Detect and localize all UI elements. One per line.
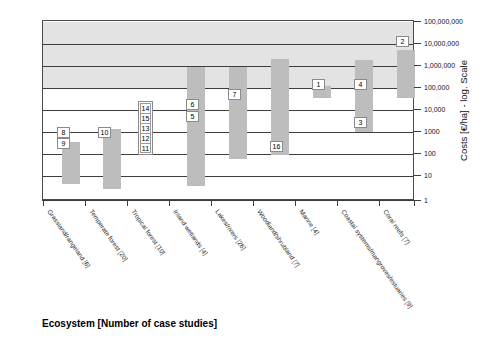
gridline-100 bbox=[43, 154, 413, 155]
x-tick-2 bbox=[127, 200, 128, 206]
y-tick-label-10: 10 bbox=[424, 172, 432, 179]
x-tick-8 bbox=[379, 200, 380, 206]
x-category-label-lakes-rivers: Lakes/rivers [26] bbox=[214, 208, 247, 251]
x-tick-3 bbox=[169, 200, 170, 206]
y-axis-title: Costs [€/ha] - log. Scale bbox=[455, 18, 471, 202]
y-axis-title-text: Costs [€/ha] - log. Scale bbox=[458, 60, 469, 161]
y-tick-1 bbox=[414, 200, 421, 201]
y-tick-100000 bbox=[414, 87, 421, 88]
x-tick-0 bbox=[43, 200, 44, 206]
x-category-label-grassland-rangeland: Grassland/rangeland [6] bbox=[46, 208, 92, 269]
annotation-box-1: 1 bbox=[312, 79, 325, 90]
y-tick-label-1: 1 bbox=[424, 197, 428, 204]
gridline-10000000 bbox=[43, 44, 413, 45]
y-tick-10 bbox=[414, 175, 421, 176]
x-tick-5 bbox=[253, 200, 254, 206]
x-category-label-coastal-systems: Coastal systems/mangroves/estuaries [9] bbox=[340, 208, 414, 309]
bar-temperate-forest bbox=[103, 129, 121, 189]
gridline-10 bbox=[43, 176, 413, 177]
annotation-box-15: 15 bbox=[140, 113, 151, 123]
x-category-label-marine: Marine [4] bbox=[298, 208, 320, 236]
x-tick-1 bbox=[85, 200, 86, 206]
annotation-box-14: 14 bbox=[140, 103, 151, 113]
x-tick-4 bbox=[211, 200, 212, 206]
x-category-label-inland-wetlands: Inland wetlands [4] bbox=[172, 208, 209, 256]
y-tick-label-10000: 10,000 bbox=[424, 106, 445, 113]
y-tick-1000 bbox=[414, 131, 421, 132]
annotation-box-5: 5 bbox=[186, 111, 199, 122]
annotation-box-8: 8 bbox=[57, 127, 70, 138]
annotation-box-10: 10 bbox=[98, 127, 111, 138]
annotation-box-6: 6 bbox=[186, 99, 199, 110]
y-tick-label-1000: 1000 bbox=[424, 128, 440, 135]
y-tick-10000 bbox=[414, 109, 421, 110]
plot-area bbox=[42, 20, 414, 200]
x-category-label-tropical-forest: Tropical forest [10] bbox=[130, 208, 166, 256]
chart-container: 8 9 10 14 15 13 12 11 6 5 7 16 1 4 3 2 1… bbox=[0, 0, 497, 364]
x-axis-line bbox=[42, 200, 415, 201]
bar-inland-wetlands bbox=[187, 67, 205, 186]
x-axis-title: Ecosystem [Number of case studies] bbox=[42, 318, 217, 329]
y-tick-label-100000: 100,000 bbox=[424, 84, 449, 91]
annotation-box-13: 13 bbox=[140, 123, 151, 133]
annotation-box-12: 12 bbox=[140, 133, 151, 143]
annotation-stack-tropical-forest: 14 15 13 12 11 bbox=[138, 101, 153, 155]
y-tick-10000000 bbox=[414, 43, 421, 44]
y-tick-100 bbox=[414, 153, 421, 154]
annotation-box-16: 16 bbox=[270, 141, 283, 152]
y-tick-1000000 bbox=[414, 65, 421, 66]
bar-coral-reefs bbox=[397, 50, 415, 98]
annotation-box-11: 11 bbox=[140, 143, 151, 153]
annotation-box-9: 9 bbox=[57, 138, 70, 149]
y-tick-label-10000000: 10,000,000 bbox=[424, 40, 459, 47]
x-tick-6 bbox=[295, 200, 296, 206]
x-category-label-coral-reefs: Coral reefs [7] bbox=[382, 208, 411, 245]
y-tick-label-100: 100 bbox=[424, 150, 436, 157]
x-tick-7 bbox=[337, 200, 338, 206]
bar-lakes-rivers bbox=[229, 67, 247, 159]
annotation-box-7: 7 bbox=[228, 89, 241, 100]
y-tick-100000000 bbox=[414, 21, 421, 22]
annotation-box-3: 3 bbox=[354, 117, 367, 128]
annotation-box-2: 2 bbox=[396, 36, 409, 47]
annotation-box-4: 4 bbox=[354, 79, 367, 90]
y-tick-label-1000000: 1,000,000 bbox=[424, 62, 455, 69]
x-category-label-temperate-forest: Temperate forest [20] bbox=[88, 208, 129, 262]
x-category-label-woodland-shrubland: Woodland/shrubland [7] bbox=[256, 208, 301, 268]
shaded-band-top bbox=[43, 22, 413, 45]
